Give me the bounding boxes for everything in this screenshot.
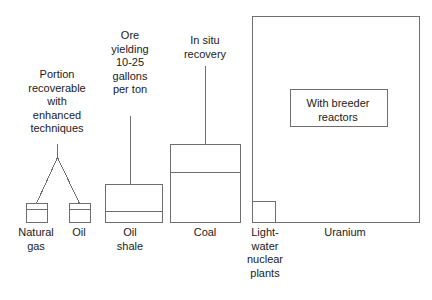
inner-box-label-with-breeder-reactors: With breeder reactors [291, 96, 386, 124]
resource-box-light-water-nuclear-plants[interactable] [253, 202, 276, 223]
connector-portion-recoverable-branch-leg-0 [37, 158, 58, 204]
resource-label-oil-shale: Oil shale [95, 226, 165, 253]
resource-label-light-water-nuclear-plants: Light- water nuclear plants [233, 226, 297, 280]
resource-box-coal[interactable] [171, 145, 241, 223]
annotation-in-situ-recovery: In situ recovery [160, 34, 250, 61]
resource-box-natural-gas[interactable] [27, 204, 48, 223]
resource-label-coal: Coal [170, 226, 240, 240]
resource-box-oil[interactable] [70, 204, 91, 223]
resource-label-uranium: Uranium [300, 226, 390, 240]
energy-resource-diagram: Portion recoverable with enhanced techni… [0, 0, 432, 300]
connector-portion-recoverable-branch-leg-1 [58, 158, 80, 204]
resource-box-oil-shale[interactable] [106, 185, 163, 223]
annotation-ore-yielding: Ore yielding 10-25 gallons per ton [90, 29, 170, 97]
resource-label-oil: Oil [59, 226, 99, 240]
